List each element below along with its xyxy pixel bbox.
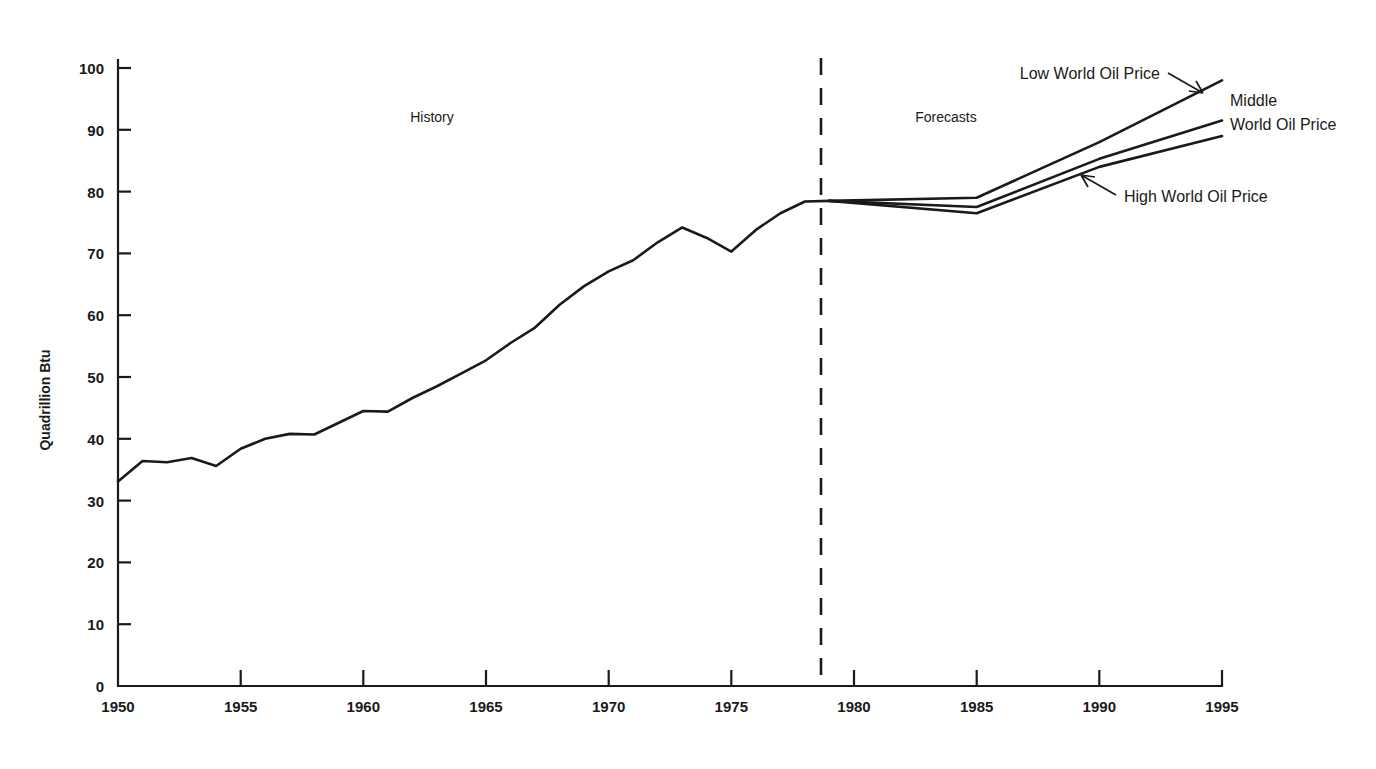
x-tick-label-1950: 1950 [101,698,134,715]
annotation-middle-world-oil-price-line1: Middle [1230,92,1277,109]
annotation-middle-world-oil-price-line2: World Oil Price [1230,116,1336,133]
x-tick-label-1965: 1965 [469,698,502,715]
series-low-world-oil-price-line [829,80,1222,201]
low-world-oil-price-leader-icon [1168,73,1203,93]
y-tick-label-30: 30 [87,493,104,510]
series-history-line [118,201,829,482]
line-chart-svg: Quadrillion Btu 100 90 80 70 60 50 40 30 [0,0,1376,769]
y-tick-label-10: 10 [87,616,104,633]
x-tick-label-1960: 1960 [347,698,380,715]
y-tick-label-90: 90 [87,122,104,139]
high-world-oil-price-leader-icon [1081,175,1116,195]
x-tick-label-1990: 1990 [1083,698,1116,715]
history-region-label: History [410,109,454,125]
y-tick-label-100: 100 [79,60,104,77]
annotation-leaders-group [1081,73,1203,195]
y-axis-title: Quadrillion Btu [37,349,53,450]
x-tick-label-1970: 1970 [592,698,625,715]
axis-lines [118,60,1222,686]
y-tick-label-20: 20 [87,554,104,571]
x-tick-label-1995: 1995 [1205,698,1238,715]
forecasts-region-label: Forecasts [915,109,976,125]
y-tick-label-50: 50 [87,369,104,386]
x-tick-label-1975: 1975 [715,698,748,715]
y-tick-label-60: 60 [87,307,104,324]
y-tick-label-70: 70 [87,245,104,262]
y-tick-label-80: 80 [87,184,104,201]
series-paths-group [118,80,1222,481]
chart-figure: Quadrillion Btu 100 90 80 70 60 50 40 30 [0,0,1376,769]
x-tick-label-1985: 1985 [960,698,993,715]
x-tick-label-1955: 1955 [224,698,257,715]
x-axis-ticks: 1950 1955 1960 1965 1970 1975 1980 1985 … [101,670,1238,715]
axes-group [118,60,1222,686]
y-tick-label-0: 0 [96,678,104,695]
y-axis-ticks: 100 90 80 70 60 50 40 30 20 10 0 [79,60,131,695]
y-tick-label-40: 40 [87,431,104,448]
annotation-high-world-oil-price: High World Oil Price [1124,188,1268,205]
y-axis-title-group: Quadrillion Btu [37,349,53,450]
annotation-low-world-oil-price: Low World Oil Price [1020,65,1160,82]
x-tick-label-1980: 1980 [837,698,870,715]
